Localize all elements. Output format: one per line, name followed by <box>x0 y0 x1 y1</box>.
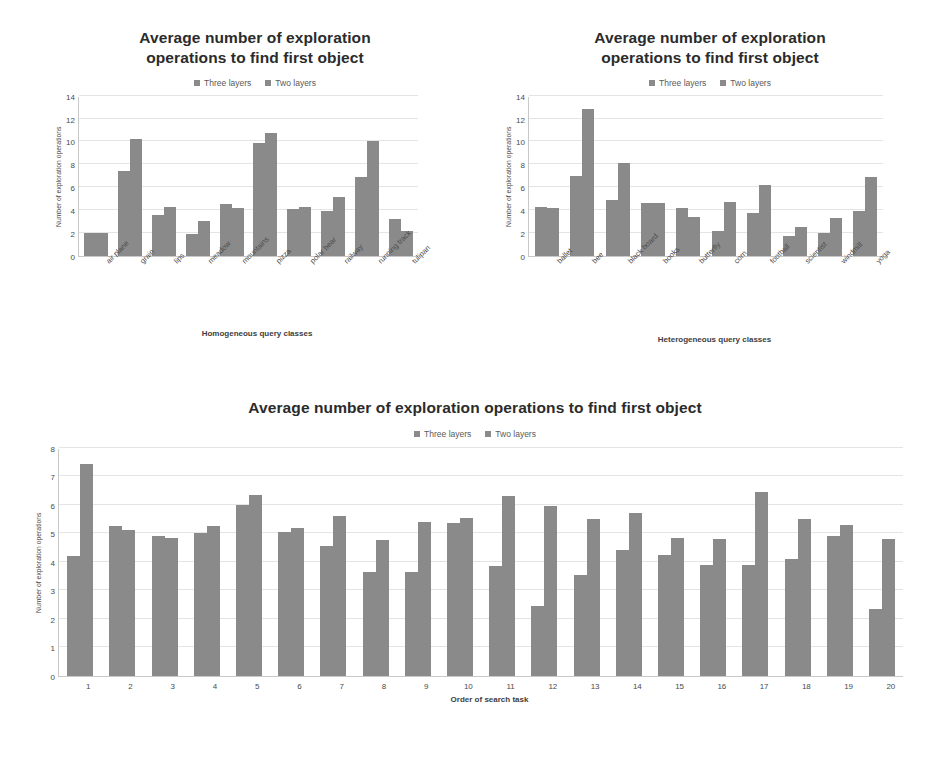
bar-two-layers[interactable] <box>587 519 600 676</box>
bar-three-layers[interactable] <box>785 559 798 676</box>
bar-three-layers[interactable] <box>742 565 755 676</box>
bar-three-layers[interactable] <box>827 536 840 676</box>
bar-group[interactable] <box>692 449 734 676</box>
bar-two-layers[interactable] <box>207 526 220 676</box>
bar-two-layers[interactable] <box>164 207 176 256</box>
bar-two-layers[interactable] <box>122 530 135 675</box>
bar-group[interactable] <box>215 97 249 256</box>
bar-two-layers[interactable] <box>582 109 594 255</box>
bar-two-layers[interactable] <box>618 163 630 256</box>
bar-three-layers[interactable] <box>186 234 198 256</box>
bar-three-layers[interactable] <box>447 523 460 675</box>
bar-group[interactable] <box>186 449 228 676</box>
bar-three-layers[interactable] <box>278 532 291 676</box>
bar-two-layers[interactable] <box>759 185 771 256</box>
legend-item-two-layers[interactable]: Two layers <box>265 78 316 88</box>
bar-three-layers[interactable] <box>489 566 502 676</box>
bar-group[interactable] <box>523 449 565 676</box>
bar-group[interactable] <box>861 449 903 676</box>
bar-two-layers[interactable] <box>198 221 210 255</box>
bar-two-layers[interactable] <box>502 496 515 676</box>
bar-two-layers[interactable] <box>165 538 178 676</box>
bar-group[interactable] <box>564 97 599 256</box>
legend-item-three-layers[interactable]: Three layers <box>194 78 251 88</box>
bar-group[interactable] <box>397 449 439 676</box>
bar-group[interactable] <box>600 97 635 256</box>
bar-group[interactable] <box>59 449 101 676</box>
bar-three-layers[interactable] <box>869 609 882 676</box>
bar-two-layers[interactable] <box>629 513 642 675</box>
bar-group[interactable] <box>529 97 564 256</box>
bar-two-layers[interactable] <box>418 522 431 676</box>
bar-group[interactable] <box>608 449 650 676</box>
bar-group[interactable] <box>143 449 185 676</box>
bar-two-layers[interactable] <box>333 516 346 676</box>
bar-three-layers[interactable] <box>194 533 207 676</box>
bar-group[interactable] <box>113 97 147 256</box>
bar-two-layers[interactable] <box>840 525 853 676</box>
bar-group[interactable] <box>147 97 181 256</box>
bar-group[interactable] <box>282 97 316 256</box>
bar-two-layers[interactable] <box>688 217 700 256</box>
bar-two-layers[interactable] <box>96 233 108 256</box>
bar-group[interactable] <box>741 97 776 256</box>
bar-two-layers[interactable] <box>547 208 559 256</box>
bar-group[interactable] <box>350 97 384 256</box>
bar-three-layers[interactable] <box>109 526 122 676</box>
bar-two-layers[interactable] <box>130 139 142 256</box>
bar-three-layers[interactable] <box>616 550 629 675</box>
bar-group[interactable] <box>101 449 143 676</box>
bar-group[interactable] <box>481 449 523 676</box>
bar-three-layers[interactable] <box>152 215 164 256</box>
bar-two-layers[interactable] <box>724 202 736 256</box>
bar-group[interactable] <box>354 449 396 676</box>
bar-group[interactable] <box>565 449 607 676</box>
bar-group[interactable] <box>181 97 215 256</box>
bar-two-layers[interactable] <box>80 464 93 676</box>
bar-two-layers[interactable] <box>376 540 389 675</box>
bar-group[interactable] <box>848 97 883 256</box>
bar-three-layers[interactable] <box>67 556 80 676</box>
bar-three-layers[interactable] <box>574 575 587 676</box>
bar-group[interactable] <box>79 97 113 256</box>
legend-item-three-layers[interactable]: Three layers <box>414 429 471 439</box>
bar-two-layers[interactable] <box>755 492 768 676</box>
bar-group[interactable] <box>316 97 350 256</box>
bar-group[interactable] <box>776 449 818 676</box>
bar-group[interactable] <box>777 97 812 256</box>
bar-two-layers[interactable] <box>795 227 807 256</box>
legend-item-two-layers[interactable]: Two layers <box>720 78 771 88</box>
bar-two-layers[interactable] <box>249 495 262 676</box>
bar-group[interactable] <box>228 449 270 676</box>
bar-group[interactable] <box>249 97 283 256</box>
bar-two-layers[interactable] <box>671 538 684 676</box>
bar-two-layers[interactable] <box>291 528 304 676</box>
bar-three-layers[interactable] <box>363 572 376 676</box>
bar-three-layers[interactable] <box>658 555 671 676</box>
bar-group[interactable] <box>734 449 776 676</box>
bar-group[interactable] <box>671 97 706 256</box>
bar-three-layers[interactable] <box>570 176 582 256</box>
bar-group[interactable] <box>650 449 692 676</box>
bar-two-layers[interactable] <box>460 518 473 676</box>
bar-two-layers[interactable] <box>367 141 379 255</box>
bar-two-layers[interactable] <box>882 539 895 676</box>
bar-two-layers[interactable] <box>713 539 726 676</box>
bar-two-layers[interactable] <box>299 207 311 256</box>
bar-three-layers[interactable] <box>320 546 333 676</box>
bar-three-layers[interactable] <box>606 200 618 256</box>
bar-group[interactable] <box>819 449 861 676</box>
bar-group[interactable] <box>439 449 481 676</box>
bar-three-layers[interactable] <box>535 207 547 256</box>
bar-two-layers[interactable] <box>232 208 244 256</box>
bar-three-layers[interactable] <box>236 505 249 676</box>
bar-two-layers[interactable] <box>798 519 811 676</box>
bar-two-layers[interactable] <box>865 177 877 256</box>
bar-three-layers[interactable] <box>84 233 96 256</box>
bar-two-layers[interactable] <box>333 197 345 255</box>
bar-three-layers[interactable] <box>405 572 418 676</box>
bar-group[interactable] <box>706 97 741 256</box>
bar-three-layers[interactable] <box>700 565 713 676</box>
bar-three-layers[interactable] <box>531 606 544 676</box>
bar-two-layers[interactable] <box>830 218 842 256</box>
